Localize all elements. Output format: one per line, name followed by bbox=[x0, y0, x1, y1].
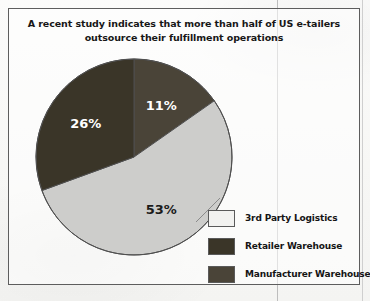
legend-item-manufacturer-warehouse[interactable]: Manufacturer Warehouse bbox=[208, 260, 358, 288]
pie-label-manufacturer-warehouse: 11% bbox=[146, 98, 177, 113]
legend-swatch-retailer-warehouse bbox=[208, 238, 235, 255]
page-edge-rule-right bbox=[362, 0, 363, 301]
pie-slices bbox=[36, 59, 232, 255]
legend-label-retailer-warehouse: Retailer Warehouse bbox=[245, 241, 342, 251]
legend-swatch-manufacturer-warehouse bbox=[208, 266, 235, 283]
legend-swatch-3rd-party-logistics bbox=[208, 210, 235, 227]
chart-title: A recent study indicates that more than … bbox=[22, 17, 346, 44]
chart-title-line-1: A recent study indicates that more than … bbox=[22, 17, 346, 31]
chart-legend: 3rd Party Logistics Retailer Warehouse M… bbox=[208, 204, 358, 288]
legend-item-retailer-warehouse[interactable]: Retailer Warehouse bbox=[208, 232, 358, 260]
legend-item-3rd-party-logistics[interactable]: 3rd Party Logistics bbox=[208, 204, 358, 232]
pie-label-retailer-warehouse: 26% bbox=[70, 116, 101, 131]
chart-title-line-2: outsource their fulfillment operations bbox=[22, 31, 346, 45]
pie-label-3rd-party-logistics: 53% bbox=[146, 202, 177, 217]
legend-label-manufacturer-warehouse: Manufacturer Warehouse bbox=[245, 269, 370, 279]
legend-label-3rd-party-logistics: 3rd Party Logistics bbox=[245, 213, 337, 223]
